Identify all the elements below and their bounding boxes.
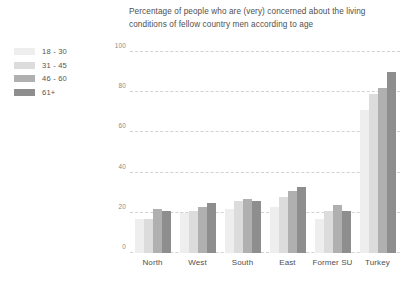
bar[interactable] (342, 211, 351, 253)
legend-item-label: 18 - 30 (42, 47, 67, 56)
x-axis-labels: NorthWestSouthEastFormer SUTurkey (130, 258, 400, 267)
bar[interactable] (369, 94, 378, 253)
legend-item[interactable]: 31 - 45 (14, 59, 104, 73)
y-axis-tick-label: 40 (118, 162, 126, 169)
bar[interactable] (297, 187, 306, 253)
plot-area: 020406080100 (130, 52, 400, 253)
bar[interactable] (378, 88, 387, 253)
legend-swatch-icon (14, 48, 35, 55)
bar[interactable] (243, 199, 252, 253)
chart-title: Percentage of people who are (very) conc… (129, 5, 409, 31)
legend-item-label: 61+ (42, 88, 55, 97)
y-axis-tick-label: 0 (122, 243, 126, 250)
bar[interactable] (180, 213, 189, 253)
y-axis-tick-label: 60 (118, 122, 126, 129)
legend-item[interactable]: 18 - 30 (14, 45, 104, 59)
bar-group (310, 52, 355, 253)
bar-groups (130, 52, 400, 253)
chart-title-line-1: Percentage of people who are (very) conc… (129, 5, 409, 18)
bar[interactable] (315, 219, 324, 253)
y-axis-tick-label: 80 (118, 82, 126, 89)
legend-item-label: 46 - 60 (42, 74, 67, 83)
y-axis-tick-label: 20 (118, 202, 126, 209)
bar[interactable] (360, 110, 369, 253)
bar-group (130, 52, 175, 253)
bar[interactable] (234, 201, 243, 253)
bar-group (355, 52, 400, 253)
x-axis-label: West (175, 258, 220, 267)
legend-swatch-icon (14, 75, 35, 82)
y-axis-tick-label: 100 (115, 42, 126, 49)
bar[interactable] (333, 205, 342, 253)
x-axis-label: East (265, 258, 310, 267)
bar[interactable] (198, 207, 207, 253)
legend-item-label: 31 - 45 (42, 61, 67, 70)
legend-swatch-icon (14, 62, 35, 69)
bar[interactable] (189, 211, 198, 253)
legend-item[interactable]: 61+ (14, 86, 104, 100)
chart-legend: 18 - 3031 - 4546 - 6061+ (14, 45, 104, 99)
bar[interactable] (207, 203, 216, 253)
bar[interactable] (279, 197, 288, 253)
bar[interactable] (135, 219, 144, 253)
bar[interactable] (225, 209, 234, 253)
bar-group (220, 52, 265, 253)
legend-swatch-icon (14, 89, 35, 96)
legend-item[interactable]: 46 - 60 (14, 72, 104, 86)
bar[interactable] (252, 201, 261, 253)
chart-title-line-2: conditions of fellow country men accordi… (129, 18, 409, 31)
bar[interactable] (288, 191, 297, 253)
x-axis-label: South (220, 258, 265, 267)
x-axis-label: Turkey (355, 258, 400, 267)
bar[interactable] (324, 211, 333, 253)
x-axis-label: North (130, 258, 175, 267)
bar-group (265, 52, 310, 253)
bar-group (175, 52, 220, 253)
bar[interactable] (162, 211, 171, 253)
bar[interactable] (270, 207, 279, 253)
bar[interactable] (144, 219, 153, 253)
bar[interactable] (153, 209, 162, 253)
x-axis-label: Former SU (310, 258, 355, 267)
bar[interactable] (387, 72, 396, 253)
